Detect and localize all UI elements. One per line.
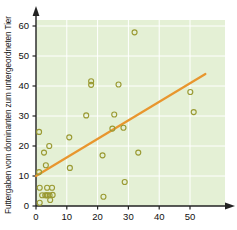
y-axis-arrow [33, 6, 40, 16]
plot-area-rect [36, 20, 225, 206]
y-tick-label: 40 [18, 80, 29, 91]
plot-canvas: 010203040506001020304050 [0, 0, 237, 230]
y-tick-label: 50 [18, 50, 29, 61]
x-tick-label: 10 [62, 211, 73, 222]
x-tick-label: 50 [185, 211, 196, 222]
x-tick-label: 0 [33, 211, 38, 222]
y-tick-label: 0 [24, 200, 29, 211]
y-tick-label: 30 [18, 110, 29, 121]
x-tick-label: 20 [92, 211, 103, 222]
y-tick-label: 10 [18, 170, 29, 181]
scatter-plot-figure: Futtergaben vom dominanten zum untergeor… [0, 0, 237, 230]
x-tick-label: 40 [154, 211, 165, 222]
x-axis-arrow [225, 203, 235, 210]
plot-background [36, 20, 225, 206]
y-tick-label: 20 [18, 140, 29, 151]
y-tick-label: 60 [18, 20, 29, 31]
x-tick-label: 30 [123, 211, 134, 222]
